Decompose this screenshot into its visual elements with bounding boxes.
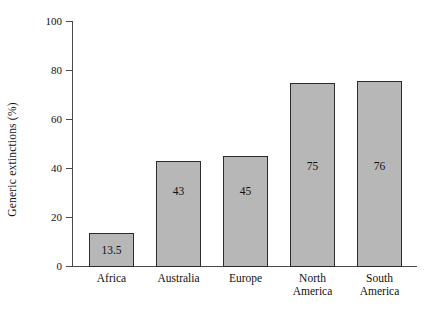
x-category-label-africa: Africa — [76, 272, 147, 285]
bar-chart: Generic extinctions (%) 100 80 60 40 20 … — [0, 0, 427, 319]
bar-south-america[interactable] — [357, 81, 402, 267]
bar-europe[interactable] — [223, 156, 268, 267]
x-category-label-north-america-line1: North — [277, 272, 348, 285]
bar-north-america[interactable] — [290, 83, 335, 267]
x-category-label-south-america-line2: America — [344, 285, 415, 298]
bar-value-europe: 45 — [223, 185, 268, 197]
bars-layer: 13.5 Africa 43 Australia 45 Europe 75 No… — [0, 0, 427, 319]
bar-value-north-america: 75 — [290, 160, 335, 172]
x-category-label-australia: Australia — [143, 272, 214, 285]
bar-value-africa: 13.5 — [89, 244, 134, 256]
x-category-label-north-america-line2: America — [277, 285, 348, 298]
bar-value-australia: 43 — [156, 185, 201, 197]
bar-value-south-america: 76 — [357, 160, 402, 172]
x-category-label-south-america-line1: South — [344, 272, 415, 285]
x-category-label-europe: Europe — [210, 272, 281, 285]
bar-australia[interactable] — [156, 161, 201, 267]
